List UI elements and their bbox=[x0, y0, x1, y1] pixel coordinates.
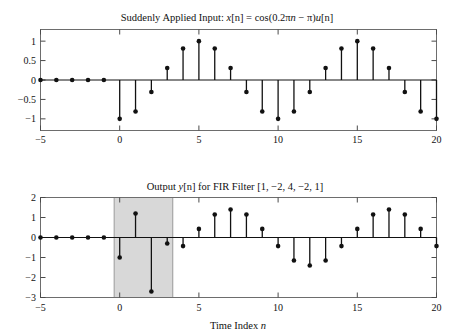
stem-marker bbox=[339, 46, 344, 51]
y-tick-label: 0.5 bbox=[24, 55, 37, 66]
stem-marker bbox=[244, 90, 249, 95]
stem-marker bbox=[149, 90, 154, 95]
x-tick-label: 5 bbox=[196, 302, 201, 313]
y-tick-label: −2 bbox=[25, 272, 36, 283]
stem-marker bbox=[165, 241, 170, 246]
input-signal-plot: Suddenly Applied Input: x[n] = cos(0.2πn… bbox=[18, 12, 442, 145]
x-tick-label: 5 bbox=[196, 134, 201, 145]
stem-marker bbox=[292, 258, 297, 263]
signal-plots-figure: Suddenly Applied Input: x[n] = cos(0.2πn… bbox=[0, 0, 454, 336]
stem-marker bbox=[70, 78, 75, 83]
stem-marker bbox=[434, 117, 439, 122]
x-tick-label: 15 bbox=[352, 134, 362, 145]
stem-marker bbox=[54, 235, 59, 240]
x-tick-label: −5 bbox=[35, 302, 46, 313]
stem-marker bbox=[212, 46, 217, 51]
stem-marker bbox=[307, 90, 312, 95]
figure-canvas: Suddenly Applied Input: x[n] = cos(0.2πn… bbox=[0, 0, 454, 336]
stem-marker bbox=[355, 227, 360, 232]
stem-marker bbox=[260, 227, 265, 232]
output-signal-plot: Output y[n] for FIR Filter [1, −2, 4, −2… bbox=[25, 181, 441, 331]
stem-marker bbox=[165, 66, 170, 71]
x-tick-label: 15 bbox=[352, 302, 362, 313]
stem-marker bbox=[371, 46, 376, 51]
stem-marker bbox=[387, 66, 392, 71]
output-plot-title: Output y[n] for FIR Filter [1, −2, 4, −2… bbox=[147, 181, 324, 192]
stem-marker bbox=[418, 109, 423, 114]
stem-marker bbox=[86, 235, 91, 240]
stem-marker bbox=[323, 66, 328, 71]
x-tick-label: 20 bbox=[432, 134, 442, 145]
stem-marker bbox=[292, 109, 297, 114]
stem-marker bbox=[276, 244, 281, 249]
input-plot-title: Suddenly Applied Input: x[n] = cos(0.2πn… bbox=[121, 12, 334, 24]
stem-marker bbox=[228, 207, 233, 212]
output-stem-series bbox=[38, 207, 439, 294]
output-plot-ytick-labels: 210−1−2−3 bbox=[25, 192, 36, 303]
stem-marker bbox=[149, 289, 154, 294]
stem-marker bbox=[387, 207, 392, 212]
y-tick-label: 0 bbox=[31, 232, 36, 243]
stem-marker bbox=[418, 227, 423, 232]
stem-marker bbox=[371, 212, 376, 217]
output-plot-ticks bbox=[41, 198, 437, 298]
x-tick-label: 0 bbox=[117, 134, 122, 145]
stem-marker bbox=[276, 117, 281, 122]
y-tick-label: 1 bbox=[31, 36, 36, 47]
y-tick-label: −1 bbox=[25, 113, 36, 124]
stem-marker bbox=[102, 235, 107, 240]
stem-marker bbox=[117, 255, 122, 260]
x-axis-label: Time Index n bbox=[210, 320, 266, 331]
x-tick-label: −5 bbox=[35, 134, 46, 145]
x-tick-label: 20 bbox=[432, 302, 442, 313]
x-tick-label: 10 bbox=[273, 134, 283, 145]
stem-marker bbox=[38, 78, 43, 83]
stem-marker bbox=[117, 117, 122, 122]
stem-marker bbox=[307, 263, 312, 268]
stem-marker bbox=[86, 78, 91, 83]
stem-marker bbox=[339, 244, 344, 249]
y-tick-label: 0 bbox=[31, 75, 36, 86]
stem-marker bbox=[133, 211, 138, 216]
output-plot-frame bbox=[41, 198, 437, 298]
stem-marker bbox=[355, 39, 360, 44]
stem-marker bbox=[38, 235, 43, 240]
stem-marker bbox=[228, 66, 233, 71]
y-tick-label: −1 bbox=[25, 252, 36, 263]
input-plot-xtick-labels: −505101520 bbox=[35, 134, 441, 145]
x-tick-label: 10 bbox=[273, 302, 283, 313]
stem-marker bbox=[102, 78, 107, 83]
y-tick-label: 1 bbox=[31, 212, 36, 223]
stem-marker bbox=[260, 109, 265, 114]
stem-marker bbox=[181, 46, 186, 51]
stem-marker bbox=[434, 244, 439, 249]
stem-marker bbox=[197, 39, 202, 44]
stem-marker bbox=[212, 212, 217, 217]
stem-marker bbox=[197, 227, 202, 232]
stem-marker bbox=[133, 109, 138, 114]
stem-marker bbox=[403, 212, 408, 217]
stem-marker bbox=[70, 235, 75, 240]
stem-marker bbox=[323, 258, 328, 263]
y-tick-label: 2 bbox=[31, 192, 36, 203]
output-plot-xtick-labels: −505101520 bbox=[35, 302, 441, 313]
stem-marker bbox=[244, 212, 249, 217]
transient-highlight-region bbox=[114, 198, 173, 298]
stem-marker bbox=[181, 244, 186, 249]
x-tick-label: 0 bbox=[117, 302, 122, 313]
stem-marker bbox=[403, 90, 408, 95]
y-tick-label: −0.5 bbox=[18, 94, 36, 105]
input-plot-ytick-labels: 10.50−0.5−1 bbox=[18, 36, 36, 125]
transient-shade-rect bbox=[114, 198, 173, 298]
stem-marker bbox=[54, 78, 59, 83]
